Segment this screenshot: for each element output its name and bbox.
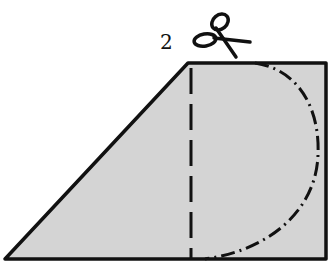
paper-shape — [0, 0, 329, 272]
scissors-icon — [193, 11, 250, 57]
